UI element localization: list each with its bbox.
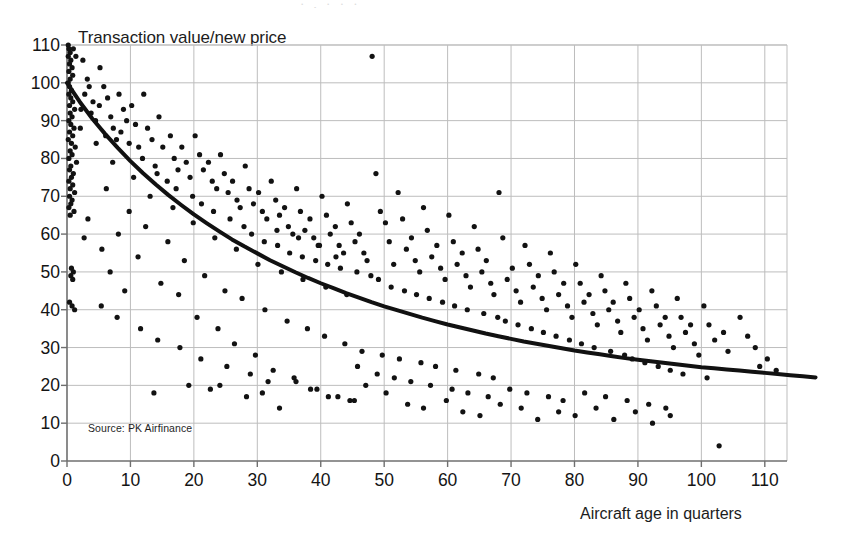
scatter-point [273, 197, 278, 202]
scatter-point [540, 296, 545, 301]
scatter-point [717, 443, 722, 448]
scatter-point [211, 209, 216, 214]
scatter-point [238, 205, 243, 210]
scatter-point [593, 405, 598, 410]
scatter-point [168, 133, 173, 138]
scatter-point [375, 371, 380, 376]
scatter-point [433, 364, 438, 369]
scatter-point [414, 292, 419, 297]
scatter-point [536, 273, 541, 278]
scatter-point [158, 281, 163, 286]
scatter-point [208, 387, 213, 392]
scatter-points [66, 42, 779, 448]
scatter-point [322, 334, 327, 339]
scatter-point [226, 190, 231, 195]
scatter-point [116, 92, 121, 97]
scatter-point [108, 269, 113, 274]
scatter-point [452, 303, 457, 308]
scatter-point [67, 167, 72, 172]
scatter-point [197, 152, 202, 157]
scatter-point [479, 269, 484, 274]
scatter-point [569, 315, 574, 320]
scatter-point [745, 334, 750, 339]
scatter-point [556, 292, 561, 297]
scatter-point [160, 145, 165, 150]
scatter-point [400, 216, 405, 221]
scatter-point [99, 303, 104, 308]
scatter-point [249, 231, 254, 236]
scatter-point [376, 277, 381, 282]
scatter-point [224, 364, 229, 369]
scatter-point [87, 84, 92, 89]
scatter-point [341, 250, 346, 255]
scatter-point [535, 417, 540, 422]
scatter-point [118, 129, 123, 134]
scatter-point [606, 307, 611, 312]
scatter-point [645, 337, 650, 342]
scatter-point [706, 322, 711, 327]
scatter-point [370, 54, 375, 59]
scatter-point [145, 126, 150, 131]
scatter-plot-canvas [0, 0, 844, 556]
scatter-point [712, 337, 717, 342]
scatter-point [172, 156, 177, 161]
scatter-point [290, 231, 295, 236]
scatter-point [85, 76, 90, 81]
scatter-point [72, 307, 77, 312]
scatter-point [151, 390, 156, 395]
scatter-point [611, 300, 616, 305]
scatter-point [484, 258, 489, 263]
scatter-point [66, 69, 71, 74]
scatter-point [757, 364, 762, 369]
scatter-point [359, 349, 364, 354]
scatter-point [68, 213, 73, 218]
scatter-point [129, 103, 134, 108]
scatter-point [97, 103, 102, 108]
scatter-point [529, 326, 534, 331]
scatter-point [496, 190, 501, 195]
scatter-point [262, 239, 267, 244]
scatter-point [460, 250, 465, 255]
scatter-point [90, 99, 95, 104]
scatter-point [326, 394, 331, 399]
trend-curve [67, 83, 816, 378]
scatter-point [599, 273, 604, 278]
scatter-point [302, 228, 307, 233]
scatter-point [154, 171, 159, 176]
scatter-point [317, 243, 322, 248]
scatter-point [277, 213, 282, 218]
scatter-point [680, 371, 685, 376]
scatter-point [234, 247, 239, 252]
scatter-point [491, 375, 496, 380]
scatter-point [409, 235, 414, 240]
scatter-point [179, 145, 184, 150]
scatter-point [637, 307, 642, 312]
scatter-point [392, 375, 397, 380]
scatter-point [522, 243, 527, 248]
scatter-point [632, 315, 637, 320]
scatter-point [136, 145, 141, 150]
scatter-point [298, 209, 303, 214]
scatter-point [72, 190, 77, 195]
scatter-point [405, 402, 410, 407]
scatter-point [663, 405, 668, 410]
scatter-point [663, 315, 668, 320]
scatter-point [421, 405, 426, 410]
scatter-point [186, 383, 191, 388]
scatter-point [271, 368, 276, 373]
scatter-point [337, 243, 342, 248]
scatter-point [495, 315, 500, 320]
scatter-point [234, 197, 239, 202]
scatter-point [275, 243, 280, 248]
scatter-point [264, 216, 269, 221]
scatter-point [603, 394, 608, 399]
scatter-point [368, 273, 373, 278]
scatter-point [193, 133, 198, 138]
scatter-point [442, 277, 447, 282]
scatter-point [627, 296, 632, 301]
scatter-point [671, 345, 676, 350]
scatter-point [658, 322, 663, 327]
scatter-point [293, 379, 298, 384]
scatter-point [560, 398, 565, 403]
scatter-point [314, 387, 319, 392]
